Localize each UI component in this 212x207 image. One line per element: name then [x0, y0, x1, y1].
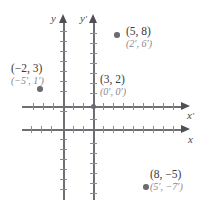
point-label-5-8: (5, 8) (2′, 6′) [126, 25, 152, 49]
coordinate-plane-figure: y y′ x′ x (5, 8) (2′, 6′) (−2, 3) (−5′, … [0, 0, 212, 207]
y-axis-tick [60, 71, 67, 72]
y-prime-axis-tick [90, 119, 97, 120]
y-axis-tick [60, 81, 67, 82]
y-prime-axis-tick [90, 33, 97, 34]
y-prime-axis-tick [90, 193, 97, 194]
y-axis-tick [60, 149, 67, 150]
y-prime-axis-tick [90, 73, 97, 74]
y-prime-axis-tick [90, 43, 97, 44]
x-prime-axis-tick [143, 103, 144, 110]
x-prime-axis-line [22, 106, 182, 108]
x-axis-tick [163, 126, 164, 133]
point-label-8-neg5-secondary: (5′, −7′) [150, 181, 183, 192]
x-prime-axis-tick [33, 103, 34, 110]
y-prime-axis-tick [90, 183, 97, 184]
y-axis-tick [60, 61, 67, 62]
y-prime-axis-tick [90, 173, 97, 174]
point-label-8-neg5-primary: (8, −5) [150, 168, 183, 181]
x-axis-tick [123, 126, 124, 133]
point-label-3-2: (3, 2) (0′, 0′) [100, 73, 126, 97]
y-prime-axis-label: y′ [80, 13, 87, 24]
x-prime-axis-tick [153, 103, 154, 110]
x-axis-tick [173, 126, 174, 133]
point-label-3-2-primary: (3, 2) [100, 73, 126, 86]
y-prime-axis-tick [90, 93, 97, 94]
x-axis-tick [153, 126, 154, 133]
x-prime-axis-tick [123, 103, 124, 110]
y-axis-tick [60, 189, 67, 190]
y-axis-tick [60, 169, 67, 170]
x-prime-axis-tick [83, 103, 84, 110]
point-dot-neg2-3 [37, 86, 43, 92]
x-prime-axis-tick [103, 103, 104, 110]
point-label-neg2-3-secondary: (−5′, 1′) [11, 75, 44, 86]
y-prime-axis-arrowhead [89, 14, 97, 23]
y-prime-axis-tick [90, 163, 97, 164]
y-axis-tick [60, 159, 67, 160]
y-prime-axis-tick [90, 83, 97, 84]
x-axis-label: x [188, 134, 193, 145]
x-axis-tick [73, 126, 74, 133]
point-label-5-8-secondary: (2′, 6′) [126, 38, 152, 49]
y-prime-axis-tick [90, 53, 97, 54]
y-axis-tick [60, 111, 67, 112]
x-prime-axis-tick [133, 103, 134, 110]
point-dot-8-neg5 [143, 184, 149, 190]
x-prime-axis-tick [173, 103, 174, 110]
y-axis-tick [60, 41, 67, 42]
x-prime-axis-tick [163, 103, 164, 110]
y-prime-axis-tick [90, 143, 97, 144]
y-axis-arrowhead [59, 14, 67, 23]
x-prime-axis-tick [43, 103, 44, 110]
point-label-5-8-primary: (5, 8) [126, 25, 152, 38]
x-axis-tick [133, 126, 134, 133]
x-axis-arrowhead [181, 125, 190, 133]
y-prime-axis-tick [90, 63, 97, 64]
x-prime-axis-tick [53, 103, 54, 110]
y-prime-axis-tick [90, 153, 97, 154]
x-axis-tick [31, 126, 32, 133]
x-prime-axis-tick [73, 103, 74, 110]
point-dot-5-8 [114, 32, 120, 38]
y-axis-label: y [51, 13, 56, 24]
y-axis-tick [60, 179, 67, 180]
x-prime-axis-tick [113, 103, 114, 110]
point-dot-3-2-origin [91, 104, 97, 110]
x-axis-tick [113, 126, 114, 133]
x-prime-mark: ′ [192, 111, 194, 121]
y-axis-tick [60, 139, 67, 140]
point-label-neg2-3: (−2, 3) (−5′, 1′) [11, 62, 44, 86]
point-label-neg2-3-primary: (−2, 3) [11, 62, 44, 75]
x-axis-tick [51, 126, 52, 133]
point-label-3-2-secondary: (0′, 0′) [100, 86, 126, 97]
x-axis-tick [83, 126, 84, 133]
point-label-8-neg5: (8, −5) (5′, −7′) [150, 168, 183, 192]
x-prime-axis-label: x′ [187, 110, 194, 121]
y-axis-tick [60, 91, 67, 92]
x-axis-tick [143, 126, 144, 133]
y-axis-tick [60, 31, 67, 32]
x-axis-tick [41, 126, 42, 133]
y-axis-tick [60, 51, 67, 52]
x-axis-line [22, 129, 182, 131]
y-prime-mark: ′ [85, 14, 87, 24]
x-axis-tick [103, 126, 104, 133]
